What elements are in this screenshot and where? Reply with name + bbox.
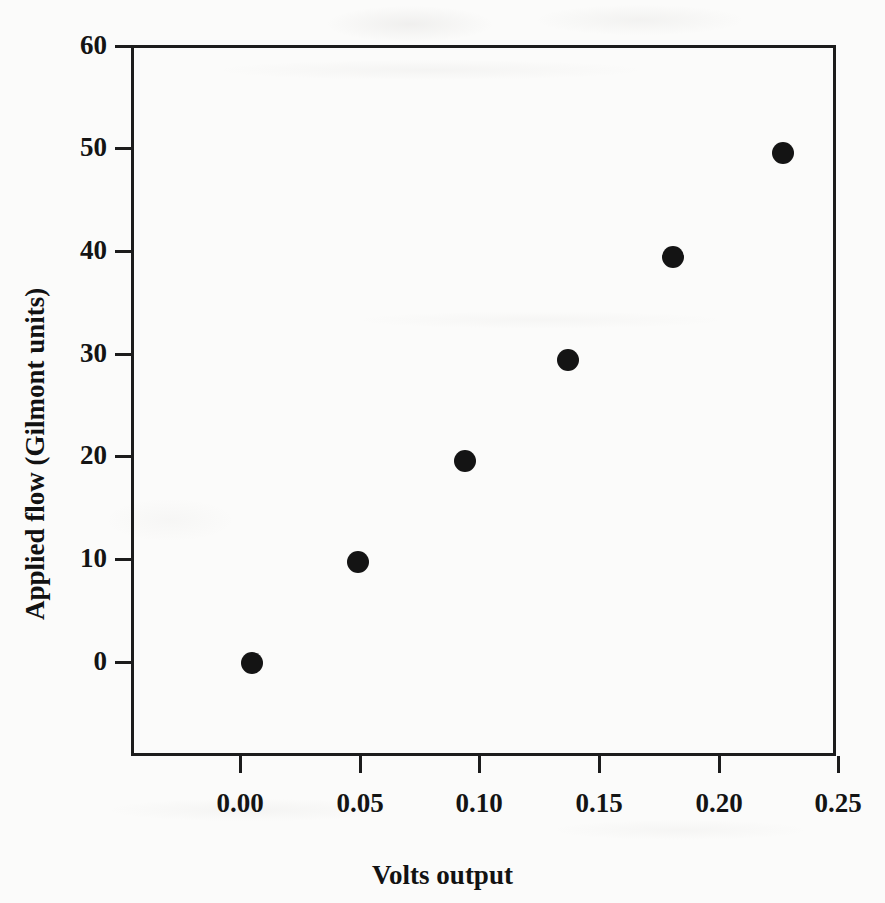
y-tick-label-40: 40	[35, 237, 107, 264]
x-tick-mark	[239, 756, 242, 773]
x-tick-mark	[598, 756, 601, 773]
data-point	[454, 450, 476, 472]
x-tick-mark	[359, 756, 362, 773]
plot-frame-right	[833, 45, 836, 756]
x-tick-label-0.25: 0.25	[778, 790, 885, 817]
plot-frame-bottom	[131, 753, 836, 756]
x-tick-label-0.15: 0.15	[539, 790, 659, 817]
data-point	[241, 652, 263, 674]
y-tick-mark	[115, 250, 132, 253]
scatter-plot-figure: 60 50 40 30 20 10 0 0.00 0.05 0.10 0.15 …	[0, 0, 885, 903]
y-tick-mark	[115, 353, 132, 356]
data-point	[557, 349, 579, 371]
y-tick-label-0: 0	[35, 648, 107, 675]
plot-frame-left	[131, 45, 134, 756]
y-tick-mark	[115, 558, 132, 561]
data-point	[772, 142, 794, 164]
y-tick-label-50: 50	[35, 134, 107, 161]
y-tick-mark	[115, 455, 132, 458]
y-axis-title: Applied flow (Gilmont units)	[20, 288, 51, 620]
x-tick-mark	[837, 756, 840, 773]
plot-frame-top	[131, 45, 836, 48]
x-tick-label-0.10: 0.10	[419, 790, 539, 817]
x-tick-mark	[478, 756, 481, 773]
x-tick-label-0.20: 0.20	[659, 790, 779, 817]
data-point	[347, 551, 369, 573]
x-tick-label-0.00: 0.00	[180, 790, 300, 817]
x-axis-title: Volts output	[0, 860, 885, 891]
x-tick-mark	[718, 756, 721, 773]
y-tick-mark	[115, 661, 132, 664]
y-tick-label-60: 60	[35, 32, 107, 59]
y-tick-mark	[115, 147, 132, 150]
data-point	[662, 246, 684, 268]
x-tick-label-0.05: 0.05	[300, 790, 420, 817]
y-tick-mark	[115, 45, 132, 48]
